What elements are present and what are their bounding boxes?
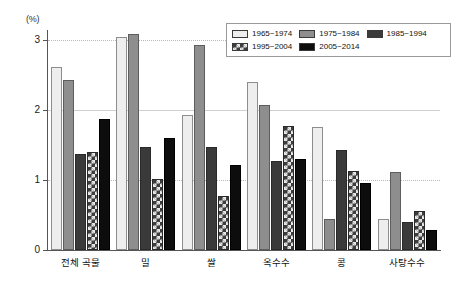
bar: [230, 165, 241, 250]
legend-item: 1995~2004: [232, 42, 292, 51]
checkered-swatch: [232, 43, 248, 51]
category-label: 전체 곡물: [48, 255, 113, 269]
legend: 1965~19741975~19841985~1994 1995~2004200…: [226, 23, 451, 57]
legend-label: 1975~1984: [319, 29, 359, 38]
black-swatch: [299, 43, 315, 51]
bar: [378, 219, 389, 250]
bar: [116, 37, 127, 250]
category-label: 쌀: [179, 255, 244, 269]
bar-group: [375, 30, 440, 250]
bar-group: [113, 30, 178, 250]
bar: [128, 34, 139, 251]
legend-row: 1965~19741975~19841985~1994: [232, 27, 446, 40]
y-tick-label-0: 0: [20, 244, 40, 255]
category-label: 옥수수: [244, 255, 309, 269]
bar: [283, 126, 294, 250]
bar: [271, 161, 282, 250]
legend-row: 1995~20042005~2014: [232, 40, 446, 53]
bar: [194, 45, 205, 250]
category-label: 사탕수수: [375, 255, 440, 269]
bar: [336, 150, 347, 250]
medium-gray-swatch: [299, 30, 315, 38]
y-axis-unit-label: (%): [26, 14, 39, 24]
bar: [295, 159, 306, 250]
legend-label: 1965~1974: [252, 29, 292, 38]
bar: [324, 219, 335, 250]
bar: [348, 171, 359, 250]
y-tick-label-1: 1: [20, 174, 40, 185]
light-gray-swatch: [232, 30, 248, 38]
legend-label: 2005~2014: [319, 42, 359, 51]
category-label: 콩: [309, 255, 374, 269]
legend-item: 1985~1994: [367, 29, 427, 38]
bar: [182, 115, 193, 250]
bar-group: [179, 30, 244, 250]
bar: [63, 80, 74, 250]
bar: [87, 152, 98, 250]
bar: [99, 119, 110, 250]
bar: [390, 172, 401, 250]
legend-label: 1985~1994: [387, 29, 427, 38]
category-label: 밀: [113, 255, 178, 269]
bar-group: [244, 30, 309, 250]
plot-area: [48, 30, 440, 250]
bar: [75, 154, 86, 250]
bar-chart: (%) 0123 전체 곡물밀쌀옥수수콩사탕수수 1965~19741975~1…: [0, 0, 463, 288]
bar: [247, 82, 258, 250]
bar: [164, 138, 175, 250]
dark-gray-swatch: [367, 30, 383, 38]
bar: [51, 67, 62, 250]
x-axis-line: [47, 250, 441, 251]
bar: [426, 230, 437, 250]
bar: [312, 127, 323, 250]
bar: [218, 196, 229, 250]
legend-item: 1965~1974: [232, 29, 292, 38]
bar: [259, 105, 270, 250]
bar-group: [309, 30, 374, 250]
bar: [206, 147, 217, 250]
bar: [152, 179, 163, 250]
legend-label: 1995~2004: [252, 42, 292, 51]
y-tick-label-3: 3: [20, 34, 40, 45]
bar: [402, 222, 413, 250]
legend-item: 1975~1984: [299, 29, 359, 38]
y-tick-label-2: 2: [20, 104, 40, 115]
bar: [414, 211, 425, 250]
y-tick-mark-0: [43, 250, 48, 251]
legend-item: 2005~2014: [299, 42, 359, 51]
bar: [360, 183, 371, 250]
bar-group: [48, 30, 113, 250]
bar: [140, 147, 151, 250]
